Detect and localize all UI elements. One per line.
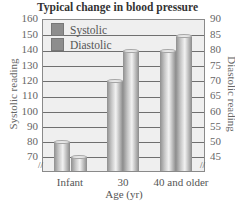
- plot-area: Systolic Diastolic: [42, 19, 205, 172]
- y-tick-left: 160: [10, 12, 38, 24]
- bar-30-systolic: [107, 79, 123, 171]
- y-tick-right: 50: [210, 135, 221, 147]
- x-tick-label: 40 and older: [145, 176, 217, 188]
- y-tick-right: 90: [210, 12, 221, 24]
- legend-swatch-systolic: [51, 23, 64, 36]
- legend: Systolic Diastolic: [47, 22, 199, 52]
- y-tick-right: 65: [210, 89, 221, 101]
- legend-swatch-diastolic: [51, 38, 64, 51]
- axis-break-left-icon: //: [38, 160, 43, 170]
- x-tick-label: 30: [93, 176, 153, 188]
- y-tick-right: 85: [210, 28, 221, 40]
- y-tick-right: 70: [210, 74, 221, 86]
- y-tick-right: 80: [210, 43, 221, 55]
- legend-item-systolic: Systolic: [47, 22, 199, 37]
- y-tick-right: 75: [210, 59, 221, 71]
- bar-40plus-systolic: [160, 49, 176, 171]
- bar-infant-systolic: [54, 140, 70, 171]
- y-axis-label-left: Systolic reading: [7, 49, 19, 139]
- y-axis-label-right: Diastolic reading: [226, 44, 235, 144]
- y-tick-left: 70: [10, 150, 38, 162]
- bar-infant-diastolic: [71, 155, 87, 171]
- y-tick-right: 55: [210, 120, 221, 132]
- legend-label: Diastolic: [70, 39, 112, 51]
- x-axis-label: Age (yr): [0, 188, 235, 200]
- axis-break-right-icon: //: [200, 160, 205, 170]
- legend-label: Systolic: [70, 24, 107, 36]
- legend-item-diastolic: Diastolic: [47, 37, 199, 52]
- y-tick-left: 150: [10, 28, 38, 40]
- bar-30-diastolic: [123, 49, 139, 171]
- x-tick-label: Infant: [40, 176, 100, 188]
- bar-40plus-diastolic: [176, 34, 192, 171]
- y-tick-right: 60: [210, 105, 221, 117]
- y-tick-right: 45: [210, 150, 221, 162]
